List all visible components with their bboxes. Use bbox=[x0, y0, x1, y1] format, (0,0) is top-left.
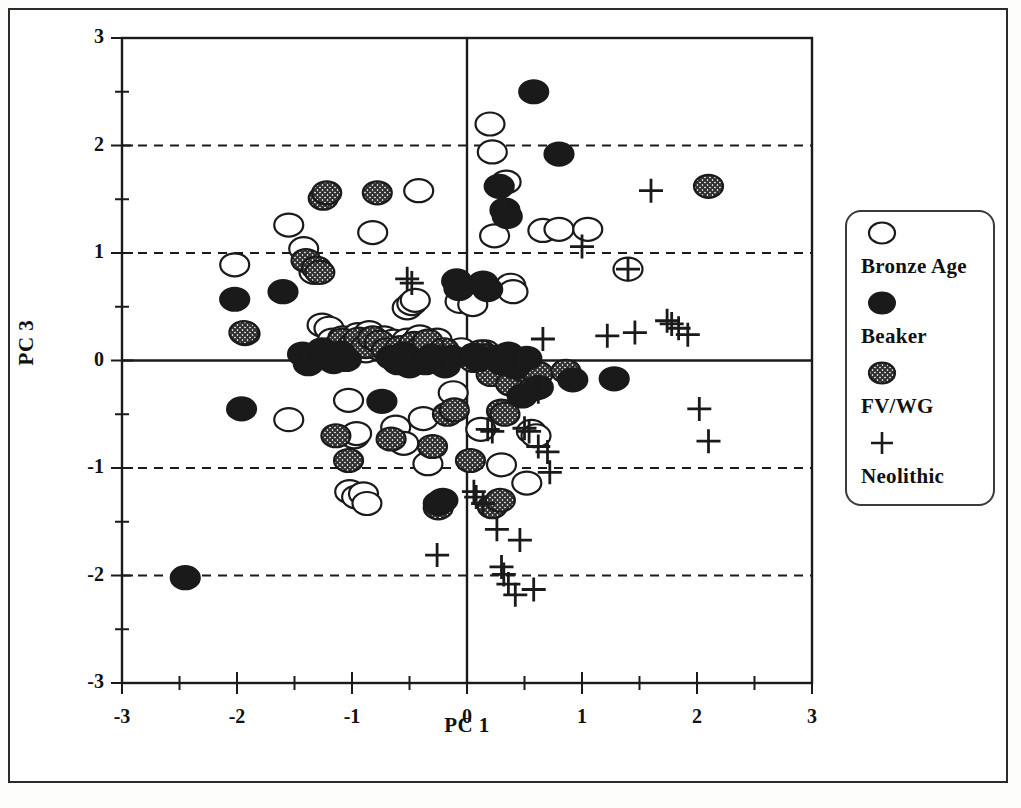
scatter-plot-figure: PC 1 PC 3 -3-2-10123 3210-1-2-3 Bronze A… bbox=[0, 0, 1021, 808]
marker-hatched-circle bbox=[694, 175, 723, 198]
marker-open-circle bbox=[334, 389, 363, 412]
marker-filled-circle bbox=[171, 566, 200, 589]
marker-open-circle bbox=[512, 472, 541, 495]
legend-label-neolithic: Neolithic bbox=[861, 464, 944, 489]
marker-filled-circle bbox=[473, 278, 502, 301]
marker-open-circle bbox=[404, 179, 433, 202]
marker-hatched-circle bbox=[305, 261, 334, 284]
y-tick-label: -3 bbox=[64, 670, 104, 693]
marker-open-circle bbox=[478, 140, 507, 163]
filled-circle-icon bbox=[865, 290, 899, 316]
marker-hatched-circle bbox=[229, 321, 258, 344]
marker-filled-circle bbox=[600, 367, 629, 390]
y-tick-label: 1 bbox=[64, 240, 104, 263]
marker-hatched-circle bbox=[377, 427, 406, 450]
marker-hatched-circle bbox=[418, 435, 447, 458]
y-axis-label: PC 3 bbox=[14, 283, 39, 403]
x-tick-label: 3 bbox=[792, 705, 832, 728]
hatched-circle-icon bbox=[865, 360, 899, 386]
marker-open-circle bbox=[274, 214, 303, 237]
marker-hatched-circle bbox=[321, 424, 350, 447]
marker-filled-circle bbox=[512, 347, 541, 370]
marker-filled-circle bbox=[519, 80, 548, 103]
legend-box: Bronze Age Beaker FV/WG Neolithic bbox=[845, 210, 995, 506]
marker-open-circle bbox=[476, 113, 505, 136]
x-tick-label: 1 bbox=[562, 705, 602, 728]
marker-filled-circle bbox=[485, 175, 514, 198]
marker-plus bbox=[660, 312, 684, 336]
legend-label-bronze-age: Bronze Age bbox=[861, 254, 967, 279]
marker-hatched-circle bbox=[363, 181, 392, 204]
marker-plus bbox=[639, 179, 663, 203]
marker-filled-circle bbox=[367, 390, 396, 413]
marker-filled-circle bbox=[227, 397, 256, 420]
marker-filled-circle bbox=[558, 368, 587, 391]
x-tick-label: -2 bbox=[217, 705, 257, 728]
marker-plus bbox=[623, 321, 647, 345]
marker-hatched-circle bbox=[334, 449, 363, 472]
marker-hatched-circle bbox=[456, 449, 485, 472]
marker-hatched-circle bbox=[440, 398, 469, 421]
marker-open-circle bbox=[573, 218, 602, 241]
open-circle-icon bbox=[865, 220, 899, 246]
y-tick-label: -1 bbox=[64, 455, 104, 478]
legend-label-fv-wg: FV/WG bbox=[861, 394, 934, 419]
y-tick-label: 3 bbox=[64, 25, 104, 48]
marker-open-circle bbox=[352, 492, 381, 515]
data-points bbox=[171, 80, 723, 607]
y-tick-label: -2 bbox=[64, 563, 104, 586]
marker-filled-circle bbox=[428, 489, 457, 512]
marker-open-circle bbox=[545, 218, 574, 241]
marker-filled-circle bbox=[269, 280, 298, 303]
marker-hatched-circle bbox=[486, 489, 515, 512]
marker-open-circle bbox=[220, 253, 249, 276]
marker-plus bbox=[522, 577, 546, 601]
marker-filled-circle bbox=[545, 143, 574, 166]
y-tick-label: 2 bbox=[64, 133, 104, 156]
marker-plus bbox=[503, 583, 527, 607]
x-tick-label: -1 bbox=[332, 705, 372, 728]
y-tick-label: 0 bbox=[64, 348, 104, 371]
x-tick-label: 2 bbox=[677, 705, 717, 728]
marker-plus bbox=[395, 267, 419, 291]
marker-plus bbox=[595, 324, 619, 348]
marker-open-circle bbox=[274, 408, 303, 431]
marker-plus bbox=[697, 429, 721, 453]
marker-filled-circle bbox=[220, 288, 249, 311]
marker-filled-circle bbox=[493, 205, 522, 228]
marker-filled-circle bbox=[332, 348, 361, 371]
marker-hatched-circle bbox=[312, 181, 341, 204]
plus-icon bbox=[865, 430, 899, 456]
marker-open-circle bbox=[358, 221, 387, 244]
marker-plus bbox=[425, 543, 449, 567]
marker-open-circle bbox=[401, 289, 430, 312]
legend-label-beaker: Beaker bbox=[861, 324, 927, 349]
x-tick-label: -3 bbox=[102, 705, 142, 728]
marker-plus bbox=[485, 517, 509, 541]
marker-plus bbox=[687, 397, 711, 421]
marker-plus bbox=[508, 528, 532, 552]
x-tick-label: 0 bbox=[447, 705, 487, 728]
marker-open-circle bbox=[487, 453, 516, 476]
